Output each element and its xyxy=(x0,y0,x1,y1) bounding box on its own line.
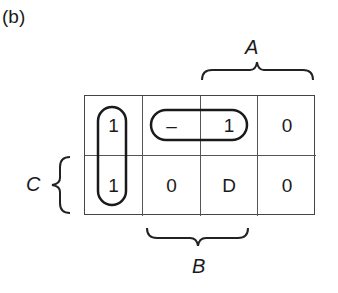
horizontal-grouping-loop xyxy=(151,110,247,140)
brace-a-icon xyxy=(202,62,313,80)
brace-c-icon xyxy=(52,157,70,213)
annotations xyxy=(0,0,338,293)
brace-b-icon xyxy=(147,228,248,246)
vertical-grouping-loop xyxy=(98,107,126,205)
